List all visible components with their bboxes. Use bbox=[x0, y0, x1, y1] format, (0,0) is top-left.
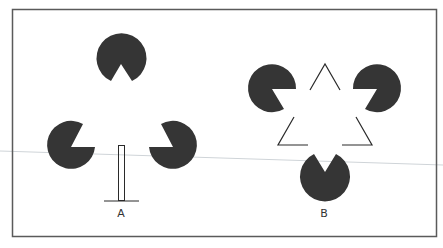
panel-b: B bbox=[248, 64, 401, 220]
panel-b-label: B bbox=[320, 207, 328, 220]
panel-a-label: A bbox=[117, 207, 125, 220]
pacman-left-a bbox=[47, 121, 95, 169]
kanizsa-illusion-figure: A B bbox=[0, 0, 443, 248]
vertical-bar bbox=[119, 146, 125, 201]
pacman-left-b bbox=[248, 64, 296, 112]
triangle-apex bbox=[310, 64, 340, 90]
pacman-right-a bbox=[149, 121, 197, 169]
pacman-top-a bbox=[97, 33, 147, 81]
triangle-corner-left bbox=[278, 117, 308, 145]
panel-a: A bbox=[47, 33, 197, 220]
triangle-corner-right bbox=[342, 117, 372, 145]
pacman-right-b bbox=[353, 64, 401, 112]
